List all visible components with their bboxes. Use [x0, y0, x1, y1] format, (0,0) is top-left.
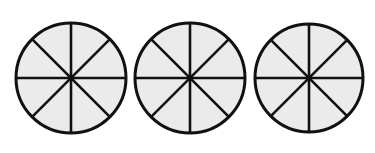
fraction-circles-diagram	[0, 0, 375, 153]
center-point	[307, 76, 311, 80]
fraction-circle-2	[135, 23, 245, 133]
fraction-circle-3	[255, 24, 363, 132]
center-point	[69, 76, 73, 80]
circles-group	[16, 23, 363, 133]
center-point	[188, 76, 192, 80]
fraction-circle-1	[16, 23, 126, 133]
